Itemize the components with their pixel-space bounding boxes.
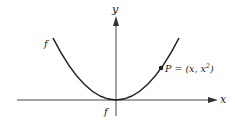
curve-label-bottom: f bbox=[103, 106, 110, 117]
y-axis-label: y bbox=[111, 3, 119, 16]
point-p bbox=[159, 66, 164, 71]
x-axis-arrow-icon bbox=[208, 97, 218, 103]
curve-label-left: f bbox=[43, 38, 50, 49]
y-axis-arrow-icon bbox=[113, 16, 119, 26]
parabola-diagram: y x f f P = (x, x2) bbox=[0, 0, 235, 125]
point-p-label: P = (x, x2) bbox=[164, 62, 214, 74]
x-axis-label: x bbox=[220, 93, 227, 106]
